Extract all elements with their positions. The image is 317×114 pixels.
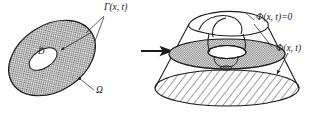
- base-ellipse: [155, 70, 299, 106]
- label-d-tilde: ~ D: [38, 47, 45, 56]
- omega-leader-line: [78, 77, 94, 90]
- zero-level-slice: [169, 39, 285, 69]
- label-omega: Ω: [96, 86, 103, 96]
- tilde-accent: ~: [38, 44, 45, 52]
- figure-container: Γ(x, t) Ω ~ D Φ(x, t)=0 Φ(x, t): [0, 0, 317, 114]
- label-gamma: Γ(x, t): [104, 3, 127, 13]
- level-set-group: [155, 11, 299, 106]
- label-phi: Φ(x, t): [276, 44, 301, 54]
- left-domain-group: [0, 5, 109, 112]
- label-phi-zero: Φ(x, t)=0: [256, 13, 292, 23]
